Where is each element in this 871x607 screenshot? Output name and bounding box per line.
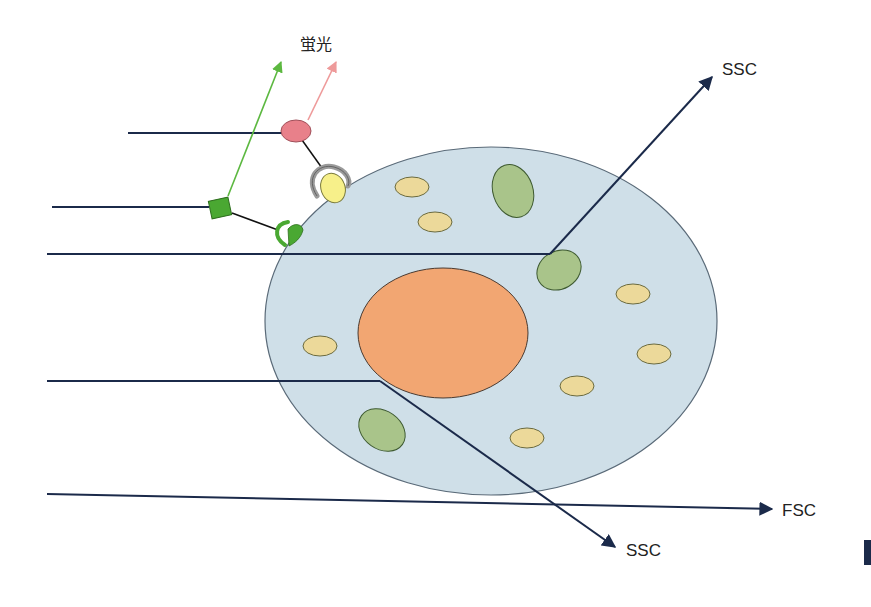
organelle xyxy=(303,336,337,356)
red-antibody-linker xyxy=(302,140,322,168)
red-fluorescence-arrow xyxy=(308,62,336,120)
organelle xyxy=(616,284,650,304)
fsc-label: FSC xyxy=(782,501,816,520)
green-fluorescence-arrow xyxy=(228,62,281,196)
edge-marker-block xyxy=(864,540,871,565)
green-receptor xyxy=(277,222,288,245)
organelle xyxy=(560,376,594,396)
ssc-top-label: SSC xyxy=(722,60,757,79)
fsc-arrow xyxy=(47,494,772,509)
ssc-bottom-label: SSC xyxy=(626,541,661,560)
nucleus xyxy=(358,268,528,398)
organelle xyxy=(637,344,671,364)
red-fluorophore xyxy=(281,120,311,142)
green-fluorophore xyxy=(208,197,231,219)
organelle xyxy=(395,177,429,197)
flow-cytometry-diagram: 蛍光 SSC FSC SSC xyxy=(0,0,871,607)
organelle xyxy=(418,212,452,232)
fluorescence-label: 蛍光 xyxy=(300,35,332,54)
organelle xyxy=(510,428,544,448)
green-antibody-linker xyxy=(232,213,278,230)
